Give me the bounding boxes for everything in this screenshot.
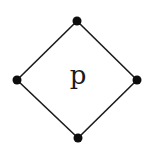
node-left xyxy=(13,76,22,85)
node-top xyxy=(73,17,82,26)
node-right xyxy=(133,76,142,85)
diamond-diagram: p xyxy=(0,0,142,158)
node-bottom xyxy=(74,134,83,143)
edge-top-left xyxy=(17,21,77,80)
center-label: p xyxy=(70,60,87,90)
edge-right-bottom xyxy=(78,80,137,138)
